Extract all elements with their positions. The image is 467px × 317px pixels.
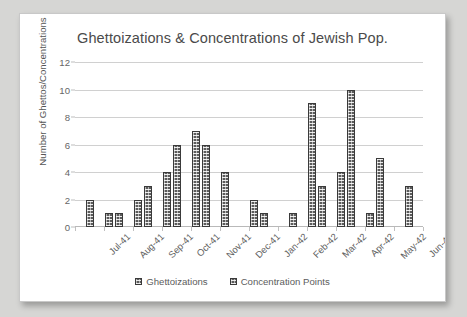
x-axis-label-oct-41: Oct-41	[194, 231, 222, 259]
bar-group	[104, 62, 133, 227]
bar-nov-41-ghettoizations[interactable]	[192, 131, 200, 227]
bar-group	[75, 62, 104, 227]
x-axis-label-mar-42: Mar-42	[339, 231, 368, 260]
x-axis-tick-mark	[423, 227, 424, 231]
bar-jan-42-concentration-points[interactable]	[260, 213, 268, 227]
chart-page: Ghettoizations & Concentrations of Jewis…	[0, 0, 467, 317]
bar-group	[133, 62, 162, 227]
bar-sep-41-ghettoizations[interactable]	[134, 200, 142, 228]
y-axis-tick-label: 2	[65, 194, 70, 205]
x-axis-label-dec-41: Dec-41	[253, 231, 282, 260]
bar-may-42-ghettoizations[interactable]	[366, 213, 374, 227]
y-axis-tick-label: 10	[59, 84, 70, 95]
y-axis-tick-label: 4	[65, 167, 70, 178]
bar-group	[220, 62, 249, 227]
bar-aug-41-concentration-points[interactable]	[115, 213, 123, 227]
bar-aug-41-ghettoizations[interactable]	[105, 213, 113, 227]
x-axis-label-jul-41: Jul-41	[106, 231, 132, 257]
bar-group	[249, 62, 278, 227]
chart-title: Ghettoizations & Concentrations of Jewis…	[20, 30, 445, 46]
bar-oct-41-ghettoizations[interactable]	[163, 172, 171, 227]
bar-nov-41-concentration-points[interactable]	[202, 145, 210, 228]
bar-feb-42-concentration-points[interactable]	[289, 213, 297, 227]
bar-mar-42-concentration-points[interactable]	[318, 186, 326, 227]
bar-jan-42-ghettoizations[interactable]	[250, 200, 258, 228]
bar-group	[191, 62, 220, 227]
y-axis-title: Number of Ghettos/Concentrations	[37, 13, 48, 172]
legend-swatch-icon	[135, 278, 142, 285]
legend-label: Concentration Points	[241, 276, 330, 287]
legend-item-ghettoizations[interactable]: Ghettoizations	[135, 276, 207, 287]
bar-apr-42-concentration-points[interactable]	[347, 90, 355, 228]
y-axis-tick-label: 8	[65, 112, 70, 123]
x-axis-label-aug-41: Aug-41	[137, 231, 166, 260]
plot-area: 024681012	[75, 62, 423, 227]
legend-item-concentration-points[interactable]: Concentration Points	[230, 276, 330, 287]
bar-mar-42-ghettoizations[interactable]	[308, 103, 316, 227]
bar-jun-42-concentration-points[interactable]	[405, 186, 413, 227]
chart-card: Ghettoizations & Concentrations of Jewis…	[19, 13, 446, 302]
bar-group	[162, 62, 191, 227]
x-axis-labels: Jul-41Aug-41Sep-41Oct-41Nov-41Dec-41Jan-…	[75, 231, 423, 281]
bar-group	[278, 62, 307, 227]
bar-dec-41-ghettoizations[interactable]	[221, 172, 229, 227]
chart-legend: GhettoizationsConcentration Points	[20, 276, 445, 287]
bars-layer	[75, 62, 423, 227]
x-axis-label-jun-42: Jun-42	[426, 231, 446, 259]
y-axis-tick-label: 0	[65, 222, 70, 233]
y-axis-tick-label: 6	[65, 139, 70, 150]
x-axis-label-feb-42: Feb-42	[310, 231, 339, 260]
x-axis-label-may-42: May-42	[398, 231, 428, 261]
legend-label: Ghettoizations	[146, 276, 207, 287]
bar-jul-41-concentration-points[interactable]	[86, 200, 94, 228]
bar-group	[307, 62, 336, 227]
bar-sep-41-concentration-points[interactable]	[144, 186, 152, 227]
legend-swatch-icon	[230, 278, 237, 285]
x-axis-label-nov-41: Nov-41	[224, 231, 253, 260]
bar-group	[336, 62, 365, 227]
x-axis-label-apr-42: Apr-42	[368, 231, 396, 259]
bar-oct-41-concentration-points[interactable]	[173, 145, 181, 228]
bar-group	[394, 62, 423, 227]
bar-may-42-concentration-points[interactable]	[376, 158, 384, 227]
bar-group	[365, 62, 394, 227]
x-axis-label-jan-42: Jan-42	[281, 231, 309, 259]
y-axis-tick-label: 12	[59, 57, 70, 68]
bar-apr-42-ghettoizations[interactable]	[337, 172, 345, 227]
x-axis-label-sep-41: Sep-41	[166, 231, 195, 260]
